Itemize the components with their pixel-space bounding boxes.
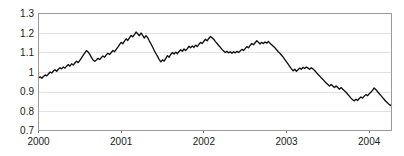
plot-frame [39, 14, 392, 131]
y-tick-label-1.1: 1.1 [20, 47, 34, 58]
y-axis-tick-labels: 0.70.80.911.11.21.3 [20, 8, 34, 136]
chart-container: 0.70.80.911.11.21.3 20002001200220032004 [0, 0, 404, 156]
y-tick-label-0.7: 0.7 [20, 125, 34, 136]
y-tick-label-0.9: 0.9 [20, 86, 34, 97]
line-chart: 0.70.80.911.11.21.3 20002001200220032004 [0, 0, 404, 156]
x-tick-label-2004: 2004 [358, 136, 381, 147]
y-tick-label-1.3: 1.3 [20, 8, 34, 19]
data-series [39, 32, 392, 106]
gridlines [39, 34, 392, 112]
y-tick-label-0.8: 0.8 [20, 106, 34, 117]
x-axis-tick-labels: 20002001200220032004 [27, 131, 380, 147]
x-tick-label-2001: 2001 [110, 136, 133, 147]
series-line-exchange-rate [39, 32, 392, 106]
y-tick-label-1.2: 1.2 [20, 28, 34, 39]
plot-border [39, 14, 392, 131]
x-tick-label-2003: 2003 [275, 136, 298, 147]
y-tick-label-1: 1 [28, 67, 34, 78]
x-tick-label-2000: 2000 [27, 136, 50, 147]
x-tick-label-2002: 2002 [193, 136, 216, 147]
